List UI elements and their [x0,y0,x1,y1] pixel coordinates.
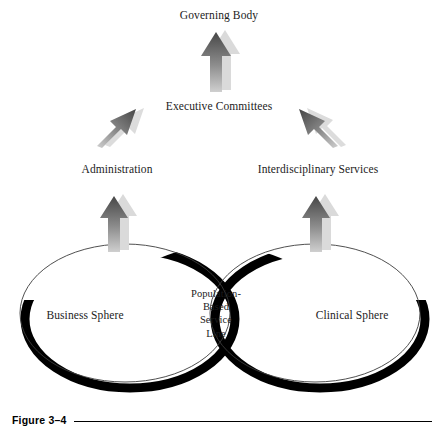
overlap-label-line-2: Based [171,300,261,313]
arrow-administration-to-executive [97,108,144,148]
diagram-canvas [0,0,440,435]
node-label-interdisciplinary-services: Interdisciplinary Services [258,163,378,175]
node-label-governing-body: Governing Body [180,9,258,21]
overlap-label-line-3: Service [171,313,261,326]
figure-container: Governing Body Executive Committees Admi… [0,0,440,435]
figure-caption-rule [74,421,432,423]
node-label-executive-committees: Executive Committees [166,100,272,112]
figure-caption-label: Figure 3–4 [12,414,67,426]
node-label-clinical-sphere: Clinical Sphere [316,309,389,321]
overlap-label-line-4: Line [171,327,261,340]
node-label-administration: Administration [81,163,152,175]
arrow-executive-to-governing [201,30,240,92]
overlap-label-line-1: Population- [171,287,261,300]
overlap-label-population-based-service-line: Population- Based Service Line [171,287,261,340]
figure-caption: Figure 3–4 [12,414,432,426]
arrow-interdisciplinary-to-executive [299,108,346,148]
node-label-business-sphere: Business Sphere [46,309,123,321]
